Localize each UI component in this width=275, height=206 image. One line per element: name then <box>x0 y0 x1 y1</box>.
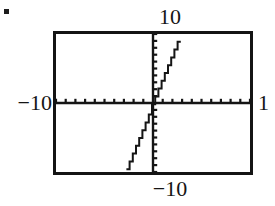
plot-area <box>56 34 250 172</box>
x-axis-max-label: 1 <box>258 92 269 114</box>
bullet-marker-icon <box>4 9 9 14</box>
graph-figure: 10 −10 1 −10 <box>0 0 275 206</box>
y-axis-min-label: −10 <box>145 178 195 200</box>
y-axis-max-label: 10 <box>145 6 195 28</box>
x-axis-min-label: −10 <box>6 92 52 114</box>
calculator-screen <box>53 31 253 175</box>
